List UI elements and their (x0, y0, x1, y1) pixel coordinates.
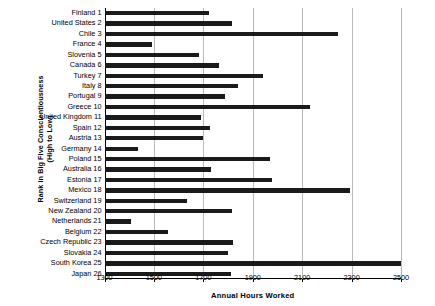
y-tick-label: Slovenia 5 (67, 50, 101, 60)
bar-row: Netherlands 21 (105, 216, 402, 226)
bar (105, 136, 204, 140)
y-tick-label: New Zealand 20 (48, 206, 101, 216)
bar-row: United States 2 (105, 18, 402, 28)
bar (105, 147, 139, 151)
bar (105, 219, 131, 223)
horizontal-bar-chart: Rank in Big Five Conscientiousness (High… (0, 0, 435, 306)
bar (105, 188, 350, 192)
y-tick-label: Belgium 22 (65, 227, 102, 237)
x-tick-label-2300: 2300 (332, 273, 372, 282)
bar-row: Estonia 17 (105, 175, 402, 185)
bar (105, 209, 232, 213)
bar (105, 94, 225, 98)
bar-row: France 4 (105, 39, 402, 49)
bar-row: Germany 14 (105, 144, 402, 154)
y-tick-label: Czech Republic 23 (40, 237, 101, 247)
y-tick-label: United Kingdom 11 (40, 112, 102, 122)
bar-row: Portugal 9 (105, 91, 402, 101)
y-tick-label: France 4 (73, 39, 102, 49)
x-tick-label-1500: 1500 (134, 273, 174, 282)
bar-row: Spain 12 (105, 123, 402, 133)
y-tick-label: United States 2 (52, 18, 102, 28)
bar (105, 32, 339, 36)
bar (105, 84, 239, 88)
bar-row: New Zealand 20 (105, 206, 402, 216)
bar (105, 251, 229, 255)
bar-row: Australia 16 (105, 164, 402, 174)
bar-row: Poland 15 (105, 154, 402, 164)
bar-row: Slovenia 5 (105, 50, 402, 60)
bar (105, 74, 264, 78)
bar (105, 63, 220, 67)
y-tick-label: Canada 6 (70, 60, 102, 70)
y-tick-label: Mexico 18 (68, 185, 101, 195)
bar-row: Switzerland 19 (105, 196, 402, 206)
y-tick-label: Greece 10 (67, 102, 101, 112)
y-tick-label: Chile 3 (79, 29, 102, 39)
bar (105, 261, 402, 265)
y-tick-label: Turkey 7 (73, 71, 101, 81)
bar-row: Finland 1 (105, 8, 402, 18)
bar (105, 240, 234, 244)
bar (105, 105, 310, 109)
y-tick-label: Netherlands 21 (52, 216, 102, 226)
x-tick-label-2100: 2100 (282, 273, 322, 282)
bar (105, 178, 273, 182)
bar-row: Mexico 18 (105, 185, 402, 195)
x-tick-label-1900: 1900 (233, 273, 273, 282)
y-tick-label: Australia 16 (63, 164, 102, 174)
bar (105, 53, 200, 57)
bar (105, 230, 169, 234)
x-tick-label-1300: 1300 (85, 273, 125, 282)
gridline-2500 (401, 8, 402, 279)
bar-row: Turkey 7 (105, 71, 402, 81)
bar (105, 167, 212, 171)
y-tick-label: South Korea 25 (51, 258, 102, 268)
bar-row: Chile 3 (105, 29, 402, 39)
plot-area: Finland 1United States 2Chile 3France 4S… (105, 8, 402, 279)
x-axis-title: Annual Hours Worked (105, 291, 402, 300)
bar-row: Slovakia 24 (105, 248, 402, 258)
bar-row: Austria 13 (105, 133, 402, 143)
y-tick-label: Poland 15 (69, 154, 102, 164)
y-tick-label: Portugal 9 (68, 91, 101, 101)
y-axis-title-line1: Rank in Big Five Conscientiousness (36, 75, 45, 202)
y-tick-label: Finland 1 (71, 8, 101, 18)
y-tick-label: Estonia 17 (67, 175, 101, 185)
y-tick-label: Slovakia 24 (64, 248, 102, 258)
y-tick-label: Spain 12 (73, 123, 102, 133)
bar (105, 42, 153, 46)
x-tick-label-1700: 1700 (183, 273, 223, 282)
bar-row: Italy 8 (105, 81, 402, 91)
bar (105, 21, 232, 25)
bar-row: United Kingdom 11 (105, 112, 402, 122)
bar (105, 115, 201, 119)
y-tick-label: Italy 8 (82, 81, 101, 91)
bar-row: Canada 6 (105, 60, 402, 70)
bar (105, 157, 271, 161)
bar-row: South Korea 25 (105, 258, 402, 268)
y-tick-label: Switzerland 19 (54, 196, 102, 206)
bar-row: Greece 10 (105, 102, 402, 112)
y-tick-label: Austria 13 (69, 133, 102, 143)
bar-row: Belgium 22 (105, 227, 402, 237)
bar (105, 11, 210, 15)
bar (105, 126, 211, 130)
bar (105, 199, 188, 203)
x-tick-label-2500: 2500 (381, 273, 421, 282)
y-tick-label: Germany 14 (61, 144, 101, 154)
bar-row: Czech Republic 23 (105, 237, 402, 247)
